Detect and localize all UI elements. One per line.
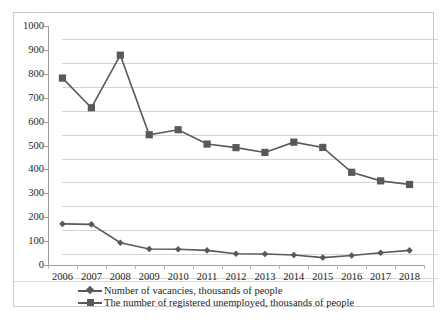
y-axis-tick-label: 600 bbox=[28, 116, 44, 127]
gridline bbox=[62, 254, 438, 255]
gridline bbox=[62, 87, 438, 88]
x-axis-tick-mark bbox=[424, 265, 425, 269]
chart-legend: Number of vacancies, thousands of people… bbox=[14, 281, 433, 306]
x-axis-tick-mark bbox=[48, 265, 49, 269]
x-axis-tick-mark bbox=[337, 265, 338, 269]
y-axis-tick-label: 300 bbox=[28, 188, 44, 199]
diamond-marker-icon bbox=[78, 285, 102, 296]
y-axis-tick-label: 100 bbox=[28, 236, 44, 247]
y-axis-tick-label: 1000 bbox=[23, 21, 44, 32]
gridline bbox=[62, 135, 438, 136]
x-axis-tick-mark bbox=[193, 265, 194, 269]
square-marker-icon bbox=[78, 297, 102, 308]
x-axis-tick-mark bbox=[366, 265, 367, 269]
gridline bbox=[62, 230, 438, 231]
x-axis-tick-mark bbox=[77, 265, 78, 269]
x-axis-tick-mark bbox=[164, 265, 165, 269]
gridline bbox=[62, 63, 438, 64]
gridline bbox=[62, 39, 438, 40]
legend-item-vacancies: Number of vacancies, thousands of people bbox=[14, 285, 433, 296]
y-axis-tick-label: 800 bbox=[28, 69, 44, 80]
gridline bbox=[62, 206, 438, 207]
x-axis-line bbox=[48, 265, 425, 266]
gridline bbox=[62, 111, 438, 112]
gridline bbox=[62, 182, 438, 183]
legend-label-vacancies: Number of vacancies, thousands of people bbox=[104, 285, 282, 296]
legend-item-unemployed: The number of registered unemployed, tho… bbox=[14, 297, 433, 308]
y-axis-line bbox=[48, 26, 49, 266]
x-axis-tick-mark bbox=[308, 265, 309, 269]
y-axis-tick-label: 400 bbox=[28, 164, 44, 175]
x-axis-tick-mark bbox=[395, 265, 396, 269]
y-axis-tick-label: 900 bbox=[28, 45, 44, 56]
x-axis-tick-mark bbox=[135, 265, 136, 269]
legend-label-unemployed: The number of registered unemployed, tho… bbox=[104, 297, 354, 308]
x-axis-tick-mark bbox=[279, 265, 280, 269]
gridline bbox=[62, 159, 438, 160]
x-axis-tick-mark bbox=[250, 265, 251, 269]
plot-area bbox=[62, 39, 438, 278]
y-axis-tick-label: 700 bbox=[28, 92, 44, 103]
x-axis-tick-mark bbox=[106, 265, 107, 269]
x-axis-tick-mark bbox=[222, 265, 223, 269]
y-axis-tick-label: 200 bbox=[28, 212, 44, 223]
chart-container bbox=[13, 12, 434, 307]
y-axis-tick-label: 500 bbox=[28, 140, 44, 151]
y-axis-labels: 01002003004005006007008009001000 bbox=[0, 0, 44, 321]
